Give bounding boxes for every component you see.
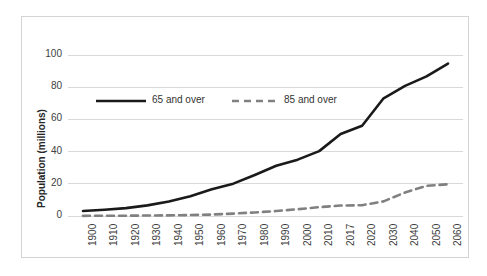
series-line-2 [83,184,448,216]
legend-label-85-and-over: 85 and over [284,94,337,105]
series-lines [83,64,448,216]
population-line-chart: Population (millions) 020406080100 19001… [0,0,487,276]
plot-area-svg [0,0,487,276]
legend-label-65-and-over: 65 and over [152,94,205,105]
series-line-1 [83,64,448,211]
